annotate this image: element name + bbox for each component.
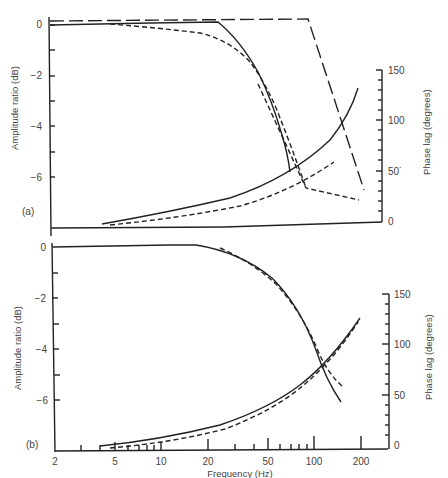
b-right-tick-50: 50 bbox=[394, 390, 406, 401]
x-tick-200: 200 bbox=[353, 456, 370, 467]
b-left-tick-neg4: −4 bbox=[36, 344, 48, 355]
panel-b-label: (b) bbox=[26, 439, 38, 450]
x-tick-2: 2 bbox=[52, 456, 58, 467]
a-ylabel-left: Amplitude ratio (dB) bbox=[9, 66, 20, 150]
x-tick-20: 20 bbox=[202, 456, 214, 467]
b-ylabel-left: Amplitude ratio (dB) bbox=[12, 306, 23, 390]
a-right-tick-150: 150 bbox=[388, 65, 405, 76]
x-axis-title: Frequency (Hz) bbox=[207, 468, 272, 478]
x-tick-10: 10 bbox=[155, 456, 167, 467]
a-left-tick-neg2: −2 bbox=[31, 70, 43, 81]
panel-b-curves bbox=[52, 245, 360, 448]
panel-a-curves bbox=[50, 19, 364, 225]
panel-a-label: (a) bbox=[22, 206, 34, 217]
a-left-tick-neg4: −4 bbox=[31, 121, 43, 132]
b-left-tick-neg2: −2 bbox=[35, 293, 47, 304]
a-left-tick-neg6: −6 bbox=[31, 172, 43, 183]
a-ylabel-right: Phase lag (degrees) bbox=[421, 89, 432, 175]
b-left-tick-0: 0 bbox=[40, 242, 46, 253]
panel-b-labels: 0 −2 −4 −6 (b) Amplitude ratio (dB) 150 … bbox=[12, 242, 411, 478]
b-right-tick-100: 100 bbox=[394, 339, 411, 350]
bode-plot-figure: 0 −2 −4 −6 (a) Amplitude ratio (dB) 150 … bbox=[0, 0, 448, 478]
panel-a-labels: 0 −2 −4 −6 (a) Amplitude ratio (dB) 150 … bbox=[9, 19, 432, 227]
b-right-tick-0: 0 bbox=[394, 440, 400, 451]
b-left-tick-neg6: −6 bbox=[37, 395, 49, 406]
a-right-tick-50: 50˙ bbox=[388, 166, 402, 177]
b-right-tick-150: 150 bbox=[394, 289, 411, 300]
a-left-tick-0: 0 bbox=[36, 19, 42, 30]
x-tick-50: 50 bbox=[262, 456, 274, 467]
panel-a-axes bbox=[49, 17, 382, 248]
a-right-tick-100: 100 bbox=[388, 115, 405, 126]
x-tick-100: 100 bbox=[306, 456, 323, 467]
b-ylabel-right-visible: Phase lag (degrees) bbox=[423, 314, 434, 400]
a-right-tick-0: 0 bbox=[388, 216, 394, 227]
x-tick-5: 5 bbox=[112, 456, 118, 467]
